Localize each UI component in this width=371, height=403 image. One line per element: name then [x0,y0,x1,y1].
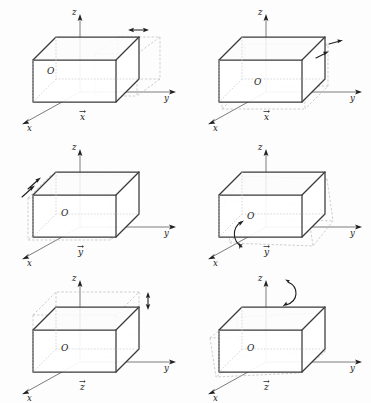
vector-arrow-icon [263,379,270,384]
axis-label-y: y [349,93,355,103]
cuboid [33,307,139,372]
cuboid [219,307,325,372]
axis-label-z: z [257,273,263,283]
panel-translation-y: O z y x y [0,135,185,269]
axis-label-y: y [163,93,169,103]
origin-label: O [254,77,262,87]
vector-arrow-icon [263,109,270,114]
curved-double-arrow-icon [283,280,297,307]
axis-label-y: y [349,363,355,373]
origin-label: O [61,343,69,353]
axis-label-z: z [71,7,77,17]
double-arrow-vertical-icon [146,292,150,310]
panel-caption-z-translation: z [80,382,85,392]
panel-caption-y-translation: y [78,247,83,257]
origin-label: O [61,208,69,218]
axis-label-z: z [71,273,77,283]
panel-translation-x: O z y x x [0,0,185,134]
axis-label-y: y [163,363,169,373]
origin-label: O [47,66,55,76]
axis-label-z: z [257,142,263,152]
origin-label: O [247,343,255,353]
vector-arrow-icon [79,109,86,114]
origin-label: O [247,211,255,221]
axis-label-x: x [27,258,32,268]
panel-caption-z-rotation: z [264,382,269,392]
vector-arrow-icon [263,244,270,249]
axis-label-x: x [213,393,218,403]
panel-translation-z: O z y x z [0,270,185,403]
axis-label-x: x [27,123,32,133]
axis-label-z: z [257,7,263,17]
axis-label-y: y [349,228,355,238]
axis-label-x: x [213,123,218,133]
axis-label-x: x [213,258,218,268]
cuboid [219,172,325,237]
axis-label-y: y [163,228,169,238]
panel-rotation-x: O z y x x [186,0,371,134]
axis-label-z: z [71,142,77,152]
figure-sheet: O z y x x [0,0,371,403]
vector-arrow-icon [79,379,86,384]
panel-caption-y-rotation: y [264,247,269,257]
panel-rotation-z: O z y x z [186,270,371,403]
panel-caption-x-translation: x [80,112,85,122]
vector-arrow-icon [77,244,84,249]
double-arrow-horizontal-icon [128,28,149,32]
cuboid [33,172,139,237]
axis-label-x: x [27,393,32,403]
panel-caption-x-rotation: x [264,112,269,122]
panel-rotation-y: O z y x y [186,135,371,269]
cuboid [219,37,325,102]
